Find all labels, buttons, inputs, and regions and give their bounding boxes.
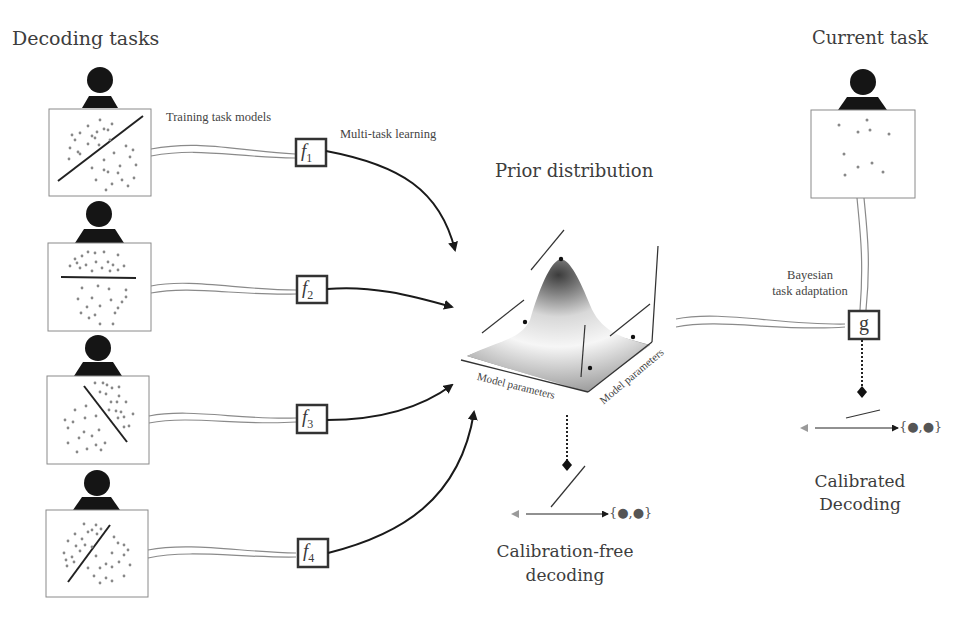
task-4-group xyxy=(46,470,296,597)
model-f3-label: f3 xyxy=(302,406,313,432)
task-1-group xyxy=(49,67,295,196)
double-line-connector xyxy=(148,547,296,558)
prior-distribution-title: Prior distribution xyxy=(495,160,653,181)
model-f2-label: f2 xyxy=(302,277,313,303)
arrow-f1-to-prior xyxy=(326,151,455,250)
double-line-prior-to-g xyxy=(676,316,845,328)
person-icon xyxy=(75,201,124,243)
person-icon xyxy=(73,470,120,510)
training-task-models-label: Training task models xyxy=(166,110,271,125)
bayesian-label-line2: task adaptation xyxy=(755,284,865,299)
diagram-canvas xyxy=(0,0,972,624)
prior-distribution-surface xyxy=(461,230,658,392)
multi-task-learning-label: Multi-task learning xyxy=(340,127,436,142)
model-f4-label: f4 xyxy=(303,540,314,566)
calibration-free-title-line2: decoding xyxy=(480,565,650,585)
output-set-calibrated: {●,●} xyxy=(899,419,942,434)
double-line-connector xyxy=(149,413,296,423)
person-icon xyxy=(74,335,122,376)
task-2-group xyxy=(48,201,296,331)
calibrated-decoding-graphic xyxy=(800,340,898,432)
current-task-title: Current task xyxy=(812,27,928,48)
calibrated-title-line2: Decoding xyxy=(800,494,920,514)
arrow-f3-to-prior xyxy=(327,385,452,420)
model-f1-label: f1 xyxy=(301,140,312,166)
double-line-connector xyxy=(151,145,295,158)
calibration-free-graphic xyxy=(511,415,608,518)
task-3-group xyxy=(47,335,296,464)
person-icon xyxy=(82,67,118,108)
calibration-free-title-line1: Calibration-free xyxy=(480,541,650,561)
double-line-connector xyxy=(151,283,296,294)
calibrated-title-line1: Calibrated xyxy=(800,471,920,491)
output-set-calibration-free: {●,●} xyxy=(609,505,652,520)
bayesian-label-line1: Bayesian xyxy=(755,268,865,283)
arrow-f4-to-prior xyxy=(328,412,474,553)
decoding-tasks-title: Decoding tasks xyxy=(12,27,159,49)
model-g-label: g xyxy=(849,311,879,335)
person-icon xyxy=(838,69,887,110)
arrow-f2-to-prior xyxy=(327,288,452,307)
